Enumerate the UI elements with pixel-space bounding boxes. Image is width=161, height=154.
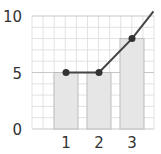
y-tick-label: 0 bbox=[12, 121, 22, 139]
line-marker bbox=[129, 35, 136, 42]
bar-1 bbox=[54, 73, 78, 130]
x-tick-label: 2 bbox=[94, 134, 104, 152]
chart: 0510 123 bbox=[0, 0, 161, 154]
y-tick-label: 5 bbox=[12, 65, 22, 83]
bar-3 bbox=[120, 39, 144, 129]
bar-2 bbox=[87, 73, 111, 130]
y-tick-label: 10 bbox=[3, 8, 22, 26]
line-marker bbox=[63, 69, 70, 76]
x-tick-label: 3 bbox=[127, 134, 137, 152]
y-axis-ticks: 0510 bbox=[3, 8, 22, 139]
x-tick-label: 1 bbox=[61, 134, 71, 152]
x-axis-ticks: 123 bbox=[61, 134, 137, 152]
line-marker bbox=[96, 69, 103, 76]
